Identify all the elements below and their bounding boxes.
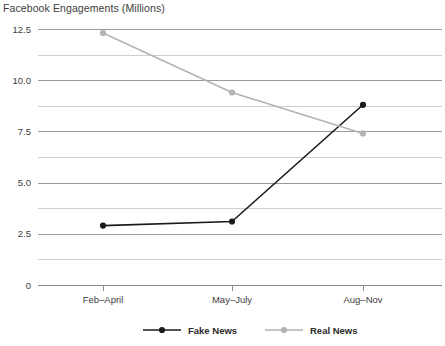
chart-container: Facebook Engagements (Millions) 02.55.07… — [0, 0, 445, 346]
data-point-fake-news — [360, 102, 366, 108]
y-axis-tick-labels: 02.55.07.510.012.5 — [13, 24, 32, 291]
data-point-fake-news — [100, 223, 106, 229]
gridlines-group — [38, 30, 442, 260]
data-point-real-news — [229, 89, 235, 95]
y-axis-tick-label: 12.5 — [13, 24, 32, 35]
data-point-real-news — [100, 30, 106, 36]
series-group — [100, 30, 366, 229]
y-axis-tick-label: 0 — [26, 280, 31, 291]
x-axis-tick-label: May–July — [212, 294, 252, 305]
y-axis-tick-label: 10.0 — [13, 75, 32, 86]
series-line-real-news — [103, 33, 363, 133]
y-axis-tick-label: 7.5 — [18, 126, 31, 137]
y-axis-tick-label: 5.0 — [18, 177, 31, 188]
x-axis-tick-label: Aug–Nov — [343, 294, 382, 305]
x-axis-tick-labels: Feb–AprilMay–JulyAug–Nov — [83, 294, 383, 305]
data-point-fake-news — [229, 218, 235, 224]
legend-item-label: Fake News — [188, 325, 237, 336]
legend-item-label: Real News — [310, 325, 358, 336]
chart-legend: Fake NewsReal News — [143, 325, 358, 336]
chart-plot-area: 02.55.07.510.012.5 Feb–AprilMay–JulyAug–… — [0, 0, 445, 346]
y-axis-tick-label: 2.5 — [18, 228, 31, 239]
series-line-fake-news — [103, 105, 363, 226]
data-point-real-news — [360, 130, 366, 136]
x-axis-line-group — [38, 285, 442, 291]
x-axis-tick-label: Feb–April — [83, 294, 124, 305]
legend-swatch-marker — [281, 327, 287, 333]
legend-swatch-marker — [159, 327, 165, 333]
